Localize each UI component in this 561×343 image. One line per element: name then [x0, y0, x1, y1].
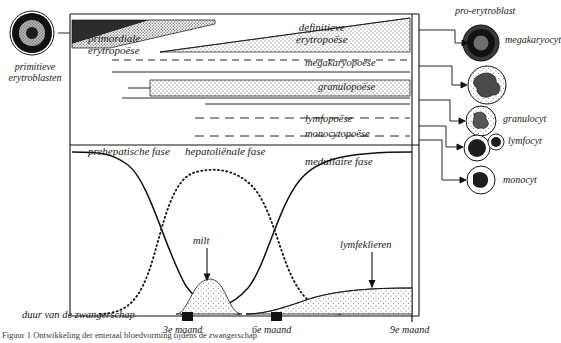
cell-connectors: [419, 30, 468, 183]
right-cell-label-granulocyt: granulocyt: [503, 114, 546, 125]
figure-diagram: primordiale erytropoëse definitieve eryt…: [0, 0, 561, 343]
right-cell-label-pro-erytroblast: pro-erytroblast: [455, 6, 515, 17]
band-label-megakaryopoese: megakaryopoëse: [305, 57, 376, 68]
diagram-canvas: [0, 0, 561, 343]
axis-tick-label-9e-maand: 9e maand: [390, 325, 429, 336]
organ-label-lymfeklieren: lymfeklieren: [340, 239, 392, 250]
phase-label-hepatolienale: hepatoliënale fase: [185, 146, 265, 158]
figure-caption: Figuur 1 Ontwikkeling der enteraal bloed…: [2, 330, 257, 340]
band-label-primordiale-line2: erytropoëse: [88, 45, 140, 57]
phase-label-medullaire: medullaire fase: [305, 156, 373, 168]
band-label-primordiale: primordiale erytropoëse: [88, 33, 140, 56]
cell-primitieve-erytroblast: [10, 11, 54, 55]
band-label-granulopoese: granulopoëse: [318, 81, 375, 92]
organ-label-milt: milt: [193, 235, 209, 246]
axis-label-duration: duur van de zwangerschap: [22, 309, 135, 320]
band-label-monocytopoese: monocytopoëse: [305, 128, 370, 139]
cell-monocyt: [467, 166, 495, 194]
left-cell-label-line1: primitieve: [2, 62, 68, 73]
left-cell-label: primitieve erytroblasten: [2, 62, 68, 83]
phase-label-prehepatische: prehepatische fase: [88, 146, 170, 158]
cell-lymfocyt: [464, 134, 504, 161]
band-label-definitieve: definitieve erytropoëse: [296, 22, 348, 45]
annotation-arrows: [204, 248, 374, 287]
right-cell-label-megakaryocyt: megakaryocyt: [505, 35, 561, 46]
cell-megakaryocyt: [468, 66, 506, 104]
band-label-primordiale-line1: primordiale: [88, 33, 140, 45]
axis-tick-label-6e-maand: 6e maand: [252, 325, 291, 336]
band-label-definitieve-line1: definitieve: [296, 22, 348, 34]
right-cell-label-lymfocyt: lymfocyt: [508, 136, 542, 147]
shape-lymfeklieren: [246, 288, 412, 314]
right-cell-label-monocyt: monocyt: [503, 175, 537, 186]
band-label-definitieve-line2: erytropoëse: [296, 34, 348, 46]
band-label-lymfopoese: lymfopoëse: [305, 113, 352, 124]
left-cell-label-line2: erytroblasten: [2, 73, 68, 84]
cell-granulocyt: [466, 106, 496, 136]
